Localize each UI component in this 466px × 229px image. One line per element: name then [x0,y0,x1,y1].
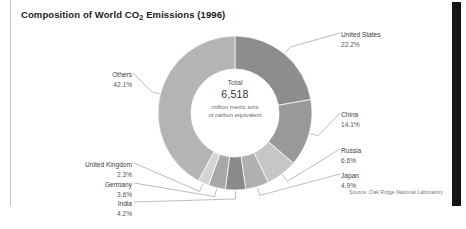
callout-india-pct: 4.2% [18,209,132,219]
leader-line-germany [134,183,217,197]
leader-line-china [310,113,340,136]
center-units-line2: of carbon equivalent [192,112,278,120]
callout-china-pct: 14.1% [341,120,360,130]
callout-india: India 4.2% [18,199,132,218]
callout-united-kingdom: United Kingdom 2.3% [18,160,132,179]
callout-others-pct: 42.1% [28,80,132,90]
callout-germany: Germany 3.6% [18,180,132,199]
callout-china-label: China [341,110,360,120]
donut-center-label: Total 6,518 million metric tons of carbo… [192,78,278,120]
center-units: million metric tons of carbon equivalent [192,104,278,120]
chart-figure: Composition of World CO2 Emissions (1996… [0,0,466,229]
callout-japan: Japan 4.9% [341,171,359,190]
callout-united-states-pct: 22.2% [341,40,381,50]
center-units-line1: million metric tons [192,104,278,112]
callout-others: Others 42.1% [28,70,132,89]
callout-germany-pct: 3.6% [18,190,132,200]
callout-united-kingdom-pct: 2.3% [18,170,132,180]
callout-united-states-label: United States [341,30,381,40]
leader-line-india [134,191,236,202]
callout-russia-label: Russia [341,146,361,156]
center-total-word: Total [192,78,278,87]
leader-line-united-states [285,33,340,53]
callout-russia-pct: 6.6% [341,156,361,166]
callout-united-kingdom-label: United Kingdom [18,160,132,170]
leader-line-others [133,73,159,94]
callout-united-states: United States 22.2% [341,30,381,49]
callout-russia: Russia 6.6% [341,146,361,165]
callout-china: China 14.1% [341,110,360,129]
center-total-value: 6,518 [192,88,278,101]
callout-others-label: Others [28,70,132,80]
callout-japan-label: Japan [341,171,359,181]
source-note: Source: Oak Ridge National Laboratory [349,189,443,195]
callout-india-label: India [18,199,132,209]
callout-germany-label: Germany [18,180,132,190]
